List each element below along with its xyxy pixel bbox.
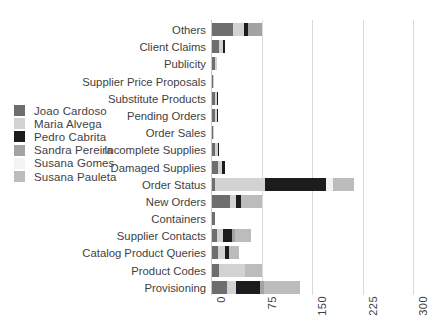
bar-segment[interactable] — [229, 246, 238, 259]
y-axis-tick-label: Containers — [6, 213, 206, 225]
y-axis-tick-label: Supplier Contacts — [6, 230, 206, 242]
y-axis-tick-label: Others — [6, 24, 206, 36]
y-axis-tick-label: Pending Orders — [6, 110, 206, 122]
bar-segment[interactable] — [213, 126, 214, 139]
bar-segment[interactable] — [212, 212, 215, 225]
stacked-bar[interactable] — [212, 23, 262, 36]
bar-segment[interactable] — [218, 246, 225, 259]
bar-segment[interactable] — [241, 195, 263, 208]
y-axis-tick-label: Product Codes — [6, 265, 206, 277]
bar-row[interactable] — [211, 278, 413, 298]
bar-segment[interactable] — [212, 264, 219, 277]
bar-segment[interactable] — [217, 92, 218, 105]
stacked-bar[interactable] — [212, 264, 262, 277]
bar-segment[interactable] — [245, 264, 262, 277]
bar-segment[interactable] — [222, 161, 225, 174]
stacked-bar[interactable] — [212, 57, 217, 70]
plot-area — [211, 20, 413, 295]
bar-segment[interactable] — [213, 75, 214, 88]
bar-segment[interactable] — [212, 281, 227, 294]
y-axis-tick-label: Catalog Product Queries — [6, 247, 206, 259]
bar-segment[interactable] — [233, 23, 244, 36]
stacked-bar[interactable] — [212, 178, 354, 191]
bar-segment[interactable] — [326, 178, 333, 191]
bar-segment[interactable] — [265, 178, 327, 191]
y-axis-tick-label: Client Claims — [6, 41, 206, 53]
y-axis-tick-label: New Orders — [6, 196, 206, 208]
gridline — [413, 20, 414, 295]
bar-segment[interactable] — [223, 40, 225, 53]
bar-segment[interactable] — [219, 264, 245, 277]
y-axis-tick-label: Order Sales — [6, 127, 206, 139]
bar-segment[interactable] — [217, 109, 218, 122]
stacked-bar[interactable] — [212, 109, 217, 122]
bar-segment[interactable] — [218, 143, 219, 156]
stacked-bar[interactable] — [212, 161, 225, 174]
x-axis-tick-label: 225 — [367, 296, 379, 316]
stacked-bar[interactable] — [212, 246, 239, 259]
stacked-bar[interactable] — [212, 75, 213, 88]
x-axis-labels: 075150225300 — [211, 296, 436, 326]
bar-segment[interactable] — [212, 40, 219, 53]
bar-segment[interactable] — [248, 23, 262, 36]
bar-segment[interactable] — [212, 23, 233, 36]
stacked-bar[interactable] — [212, 281, 300, 294]
stacked-bar[interactable] — [212, 195, 262, 208]
bar-segment[interactable] — [215, 57, 218, 70]
y-axis-tick-label: Substitute Products — [6, 93, 206, 105]
stacked-bar[interactable] — [212, 212, 215, 225]
y-axis-tick-label: Supplier Price Proposals — [6, 76, 206, 88]
stacked-bar[interactable] — [212, 126, 213, 139]
bar-segment[interactable] — [333, 178, 354, 191]
x-axis-tick-label: 300 — [417, 296, 429, 316]
stacked-bar[interactable] — [212, 40, 225, 53]
bar-segment[interactable] — [236, 281, 260, 294]
x-axis-tick-label: 0 — [215, 296, 227, 303]
bar-segment[interactable] — [227, 281, 236, 294]
bar-segment[interactable] — [235, 229, 251, 242]
bar-segment[interactable] — [223, 229, 231, 242]
y-axis-tick-label: Order Status — [6, 179, 206, 191]
stacked-bar[interactable] — [212, 92, 217, 105]
y-axis-tick-label: Publicity — [6, 58, 206, 70]
y-axis-tick-label: Incomplete Supplies — [6, 144, 206, 156]
stacked-bar[interactable] — [212, 143, 219, 156]
bar-segment[interactable] — [264, 281, 300, 294]
y-axis-labels: OthersClient ClaimsPublicitySupplier Pri… — [3, 20, 206, 295]
bar-segment[interactable] — [215, 178, 264, 191]
x-axis-tick-label: 75 — [266, 296, 278, 309]
bar-segment[interactable] — [212, 195, 230, 208]
stacked-bar[interactable] — [212, 229, 251, 242]
x-axis-tick-label: 150 — [316, 296, 328, 316]
y-axis-tick-label: Provisioning — [6, 282, 206, 294]
y-axis-tick-label: Damaged Supplies — [6, 162, 206, 174]
bar-chart: Joao CardosoMaria AlvegaPedro CabritaSan… — [0, 0, 436, 326]
